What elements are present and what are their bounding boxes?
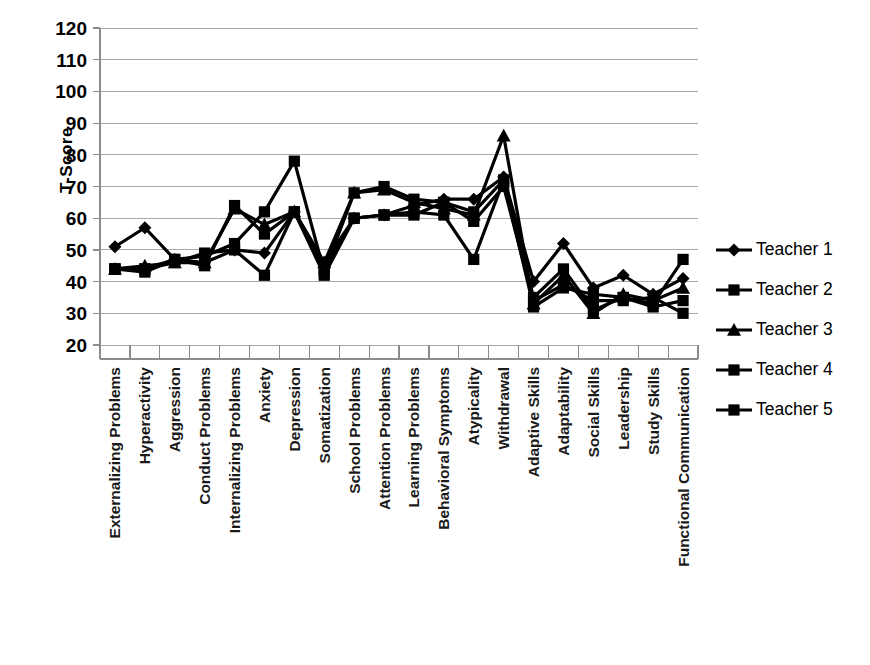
data-point-square — [319, 270, 330, 281]
x-axis-label: Internalizing Problems — [226, 367, 243, 533]
legend-label: Teacher 5 — [756, 399, 833, 419]
y-tick-label: 50 — [66, 240, 87, 261]
x-axis-labels-group: Externalizing ProblemsHyperactivityAggre… — [106, 367, 691, 567]
data-point-square — [139, 263, 150, 274]
x-axis-label: Conduct Problems — [196, 367, 213, 505]
legend-label: Teacher 4 — [756, 359, 833, 379]
data-point-square — [169, 257, 180, 268]
y-tick-label: 90 — [66, 113, 87, 134]
data-point-square — [728, 404, 739, 415]
data-point-square — [289, 156, 300, 167]
data-point-square — [438, 197, 449, 208]
series-group — [108, 129, 690, 319]
x-axis-label: Externalizing Problems — [106, 367, 123, 538]
data-point-square — [438, 209, 449, 220]
data-point-square — [259, 270, 270, 281]
x-axis-label: Behavioral Symptoms — [435, 367, 452, 530]
x-axis-label: Learning Problems — [405, 367, 422, 507]
data-point-square — [728, 284, 739, 295]
y-tick-label: 100 — [55, 81, 87, 102]
x-axis-label: Atypicality — [465, 367, 482, 446]
data-point-square — [229, 200, 240, 211]
data-point-square — [378, 209, 389, 220]
x-axis-label: Leadership — [615, 367, 632, 450]
y-axis-ticks-group: 1201101009080706050403020 — [55, 18, 100, 356]
x-axis-label: Adaptability — [555, 367, 572, 456]
x-axis-label: Functional Communication — [675, 367, 692, 567]
data-point-square — [677, 254, 688, 265]
data-point-square — [259, 228, 270, 239]
data-point-square — [408, 209, 419, 220]
legend-label: Teacher 3 — [756, 319, 833, 339]
legend-item-3[interactable]: Teacher 3 — [716, 319, 833, 339]
x-axis-label: Social Skills — [585, 367, 602, 457]
x-axis-label: Somatization — [316, 367, 333, 463]
data-point-square — [259, 206, 270, 217]
data-point-square — [677, 295, 688, 306]
y-tick-label: 60 — [66, 208, 87, 229]
legend-item-4[interactable]: Teacher 4 — [716, 359, 833, 379]
x-axis-ticks-group — [100, 345, 698, 359]
legend-item-2[interactable]: Teacher 2 — [716, 279, 833, 299]
data-point-square — [528, 295, 539, 306]
legend-item-1[interactable]: Teacher 1 — [716, 239, 833, 259]
data-point-square — [289, 206, 300, 217]
y-tick-label: 120 — [55, 18, 87, 39]
legend-label: Teacher 2 — [756, 279, 833, 299]
x-axis-label: School Problems — [346, 367, 363, 494]
x-axis-label: Anxiety — [256, 367, 273, 423]
y-tick-label: 70 — [66, 177, 87, 198]
data-point-square — [199, 260, 210, 271]
legend-item-5[interactable]: Teacher 5 — [716, 399, 833, 419]
data-point-square — [558, 279, 569, 290]
data-point-diamond — [728, 244, 741, 257]
x-axis-label: Study Skills — [645, 367, 662, 455]
chart-container: T-Score 1201101009080706050403020 Extern… — [0, 0, 870, 665]
data-point-square — [588, 295, 599, 306]
y-tick-label: 40 — [66, 272, 87, 293]
data-point-square — [558, 263, 569, 274]
data-point-square — [349, 213, 360, 224]
x-axis-label: Attention Problems — [376, 367, 393, 510]
data-point-triangle — [676, 281, 690, 294]
data-point-square — [618, 295, 629, 306]
y-tick-label: 30 — [66, 303, 87, 324]
data-point-triangle — [497, 129, 511, 142]
x-axis-label: Withdrawal — [495, 367, 512, 450]
data-point-square — [468, 216, 479, 227]
line-chart: 1201101009080706050403020 Externalizing … — [0, 0, 870, 665]
legend: Teacher 1Teacher 2Teacher 3Teacher 4Teac… — [716, 239, 833, 419]
x-axis-label: Hyperactivity — [136, 367, 153, 465]
data-point-square — [109, 263, 120, 274]
y-tick-label: 80 — [66, 145, 87, 166]
data-point-square — [229, 244, 240, 255]
x-axis-label: Aggression — [166, 367, 183, 452]
series-3 — [108, 129, 690, 319]
legend-label: Teacher 1 — [756, 239, 833, 259]
y-tick-label: 20 — [66, 335, 87, 356]
data-point-square — [677, 308, 688, 319]
x-axis-label: Adaptive Skills — [525, 367, 542, 477]
x-axis-label: Depression — [286, 367, 303, 451]
data-point-square — [468, 254, 479, 265]
data-point-square — [728, 364, 739, 375]
data-point-square — [498, 181, 509, 192]
data-point-square — [199, 247, 210, 258]
data-point-square — [648, 292, 659, 303]
y-tick-label: 110 — [56, 50, 87, 71]
series-2 — [109, 156, 688, 313]
